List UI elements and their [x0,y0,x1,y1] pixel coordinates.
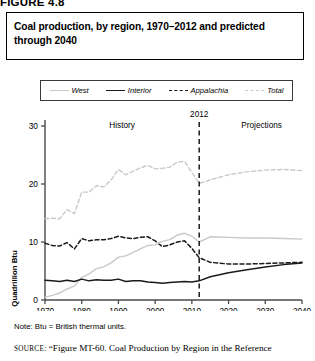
legend-swatch-interior-icon [106,90,125,91]
svg-text:2010: 2010 [183,307,202,311]
series-line-total [45,161,302,218]
history-label: History [109,121,135,130]
legend-label-west: West [72,86,89,95]
chart-legend: West Interior Appalachia Total [40,80,293,101]
svg-text:0: 0 [33,295,38,305]
svg-text:30: 30 [29,121,39,131]
svg-text:10: 10 [29,237,39,247]
figure-label: FIGURE 4.8 [0,0,65,8]
legend-swatch-total-icon [245,90,264,91]
y-axis-title: Quadrillion Btu [10,234,19,324]
legend-item-total: Total [245,86,283,95]
svg-text:2030: 2030 [256,307,275,311]
chart-plot-area: 010203019701980199020002010202020302040 … [0,106,315,311]
chart-series-group [45,161,302,297]
source-prefix: SOURCE: [14,345,46,353]
legend-item-appalachia: Appalachia [169,86,229,95]
svg-text:2040: 2040 [293,307,312,311]
svg-text:1970: 1970 [36,307,55,311]
svg-text:1990: 1990 [109,307,128,311]
series-line-interior [45,263,302,283]
legend-label-appalachia: Appalachia [191,86,229,95]
source-text: “Figure MT-60. Coal Production by Region… [49,343,272,353]
chart-note: Note: Btu = British thermal units. [14,322,126,331]
legend-item-interior: Interior [106,86,152,95]
chart-svg: 010203019701980199020002010202020302040 … [0,106,315,311]
legend-label-total: Total [267,86,283,95]
legend-item-west: West [50,86,89,95]
page-title: Coal production, by region, 1970–2012 an… [14,20,279,47]
projections-label: Projections [241,121,282,130]
legend-label-interior: Interior [128,86,152,95]
legend-swatch-west-icon [50,90,69,91]
svg-text:2020: 2020 [219,307,238,311]
divider-year-label: 2012 [190,110,209,119]
svg-text:20: 20 [29,179,39,189]
series-line-appalachia [45,236,302,264]
legend-swatch-appalachia-icon [169,90,188,91]
chart-source: SOURCE: “Figure MT-60. Coal Production b… [14,343,306,355]
svg-text:1980: 1980 [73,307,92,311]
svg-text:2000: 2000 [146,307,165,311]
chart-annotations: 2012HistoryProjections [109,110,282,300]
